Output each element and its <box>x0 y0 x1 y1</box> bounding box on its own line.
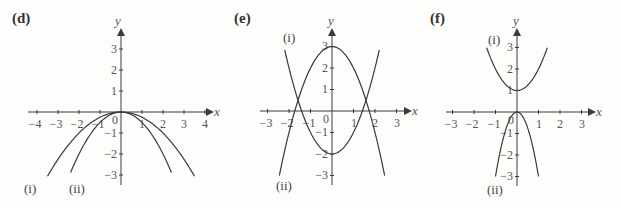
svg-text:0: 0 <box>323 112 329 126</box>
x-tick-labels: −4 −3 −2 −1 0 1 2 3 4 <box>29 113 208 131</box>
panel-d: (d) x y −4 −3 −2 −1 0 1 2 3 4 3 <box>12 10 220 196</box>
svg-text:1: 1 <box>111 84 117 98</box>
y-axis-label: y <box>326 13 334 28</box>
svg-text:−3: −3 <box>260 116 273 130</box>
panel-e: (e) x y −3 −2 −1 0 1 2 3 3 2 1 −1 −2 <box>234 10 418 193</box>
svg-text:−3: −3 <box>50 117 63 131</box>
svg-text:−1: −1 <box>315 125 328 139</box>
panel-e-label: (e) <box>234 10 251 27</box>
x-tick-labels: −3 −2 −1 0 1 2 3 <box>260 112 400 130</box>
svg-text:3: 3 <box>394 116 400 130</box>
svg-text:4: 4 <box>202 117 208 131</box>
panel-d-label: (d) <box>12 10 30 27</box>
svg-text:−3: −3 <box>445 117 458 131</box>
svg-text:−1: −1 <box>488 117 501 131</box>
svg-text:−1: −1 <box>104 126 117 140</box>
svg-text:−2: −2 <box>104 147 117 161</box>
curve-label-d-ii: (ii) <box>69 181 85 196</box>
svg-text:2: 2 <box>160 117 166 131</box>
svg-text:−4: −4 <box>29 117 42 131</box>
panel-f: (f) x y −3 −2 −1 0 1 2 3 3 2 1 −1 −2 <box>430 10 602 197</box>
svg-text:−2: −2 <box>500 148 513 162</box>
y-axis-label: y <box>511 13 519 28</box>
svg-text:3: 3 <box>111 42 117 56</box>
y-axis-label: y <box>113 13 121 28</box>
x-tick-labels: −3 −2 −1 0 1 2 3 <box>445 113 585 131</box>
svg-text:−2: −2 <box>71 117 84 131</box>
svg-text:2: 2 <box>507 62 513 76</box>
figure: (d) x y −4 −3 −2 −1 0 1 2 3 4 3 <box>0 0 621 208</box>
svg-text:0: 0 <box>112 113 118 127</box>
x-axis-label: x <box>213 104 220 119</box>
curve-label-d-i: (i) <box>24 181 36 196</box>
curve-label-f-i: (i) <box>488 32 500 47</box>
svg-text:1: 1 <box>536 117 542 131</box>
svg-text:2: 2 <box>322 61 328 75</box>
panel-f-label: (f) <box>430 10 445 27</box>
svg-text:−3: −3 <box>315 168 328 182</box>
svg-text:1: 1 <box>322 82 328 96</box>
svg-text:3: 3 <box>507 40 513 54</box>
curve-label-e-i: (i) <box>283 30 295 45</box>
svg-text:−3: −3 <box>500 169 513 183</box>
x-axis-label: x <box>595 104 602 119</box>
svg-text:3: 3 <box>579 117 585 131</box>
svg-text:3: 3 <box>181 117 187 131</box>
curve-label-e-ii: (ii) <box>276 178 292 193</box>
curve-label-f-ii: (ii) <box>487 182 503 197</box>
svg-text:2: 2 <box>557 117 563 131</box>
svg-text:−2: −2 <box>466 117 479 131</box>
svg-text:−3: −3 <box>104 168 117 182</box>
svg-text:2: 2 <box>111 63 117 77</box>
x-axis-label: x <box>411 103 418 118</box>
